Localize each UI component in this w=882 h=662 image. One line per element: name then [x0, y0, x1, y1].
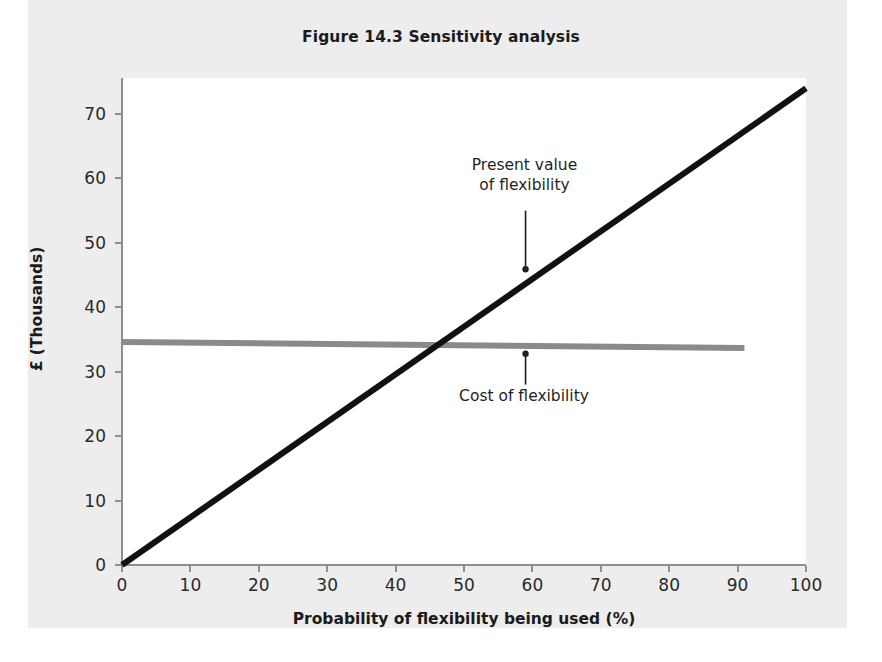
x-tick-mark — [395, 566, 397, 572]
y-tick-mark — [115, 177, 122, 179]
x-tick-mark — [737, 566, 739, 572]
x-axis-title: Probability of flexibility being used (%… — [122, 610, 806, 628]
y-tick-label: 0 — [62, 555, 106, 575]
present-value-annotation: Present valueof flexibility — [432, 155, 617, 196]
y-tick-mark — [115, 242, 122, 244]
y-tick-mark — [115, 113, 122, 115]
cost-annotation: Cost of flexibility — [424, 386, 624, 406]
x-tick-label: 40 — [366, 575, 426, 595]
x-tick-label: 90 — [708, 575, 768, 595]
x-tick-label: 0 — [92, 575, 152, 595]
x-tick-label: 20 — [229, 575, 289, 595]
x-tick-mark — [326, 566, 328, 572]
present-value-annotation-line2: of flexibility — [479, 176, 569, 194]
cost-annotation-line1: Cost of flexibility — [459, 387, 589, 405]
x-tick-mark — [463, 566, 465, 572]
x-tick-label: 50 — [434, 575, 494, 595]
y-axis-line — [121, 78, 123, 565]
x-tick-mark — [668, 566, 670, 572]
y-axis-title: £ (Thousands) — [28, 194, 46, 424]
figure-page: Figure 14.3 Sensitivity analysis 0102030… — [0, 0, 882, 662]
present-value-annotation-line1: Present value — [472, 156, 577, 174]
x-tick-mark — [805, 566, 807, 572]
x-tick-label: 70 — [571, 575, 631, 595]
x-tick-mark — [600, 566, 602, 572]
x-tick-mark — [189, 566, 191, 572]
x-tick-label: 10 — [160, 575, 220, 595]
y-tick-mark — [115, 306, 122, 308]
y-tick-mark — [115, 371, 122, 373]
y-tick-label: 10 — [62, 491, 106, 511]
x-tick-label: 30 — [297, 575, 357, 595]
y-tick-label: 50 — [62, 233, 106, 253]
x-tick-mark — [121, 566, 123, 572]
y-tick-mark — [115, 435, 122, 437]
y-tick-label: 70 — [62, 104, 106, 124]
x-tick-mark — [258, 566, 260, 572]
x-tick-mark — [531, 566, 533, 572]
y-tick-label: 60 — [62, 168, 106, 188]
x-tick-label: 80 — [639, 575, 699, 595]
plot-canvas — [122, 78, 806, 565]
y-tick-mark — [115, 500, 122, 502]
y-tick-label: 20 — [62, 426, 106, 446]
x-tick-label: 60 — [502, 575, 562, 595]
figure-title: Figure 14.3 Sensitivity analysis — [0, 28, 882, 46]
y-tick-label: 30 — [62, 362, 106, 382]
x-tick-label: 100 — [776, 575, 836, 595]
y-tick-label: 40 — [62, 297, 106, 317]
